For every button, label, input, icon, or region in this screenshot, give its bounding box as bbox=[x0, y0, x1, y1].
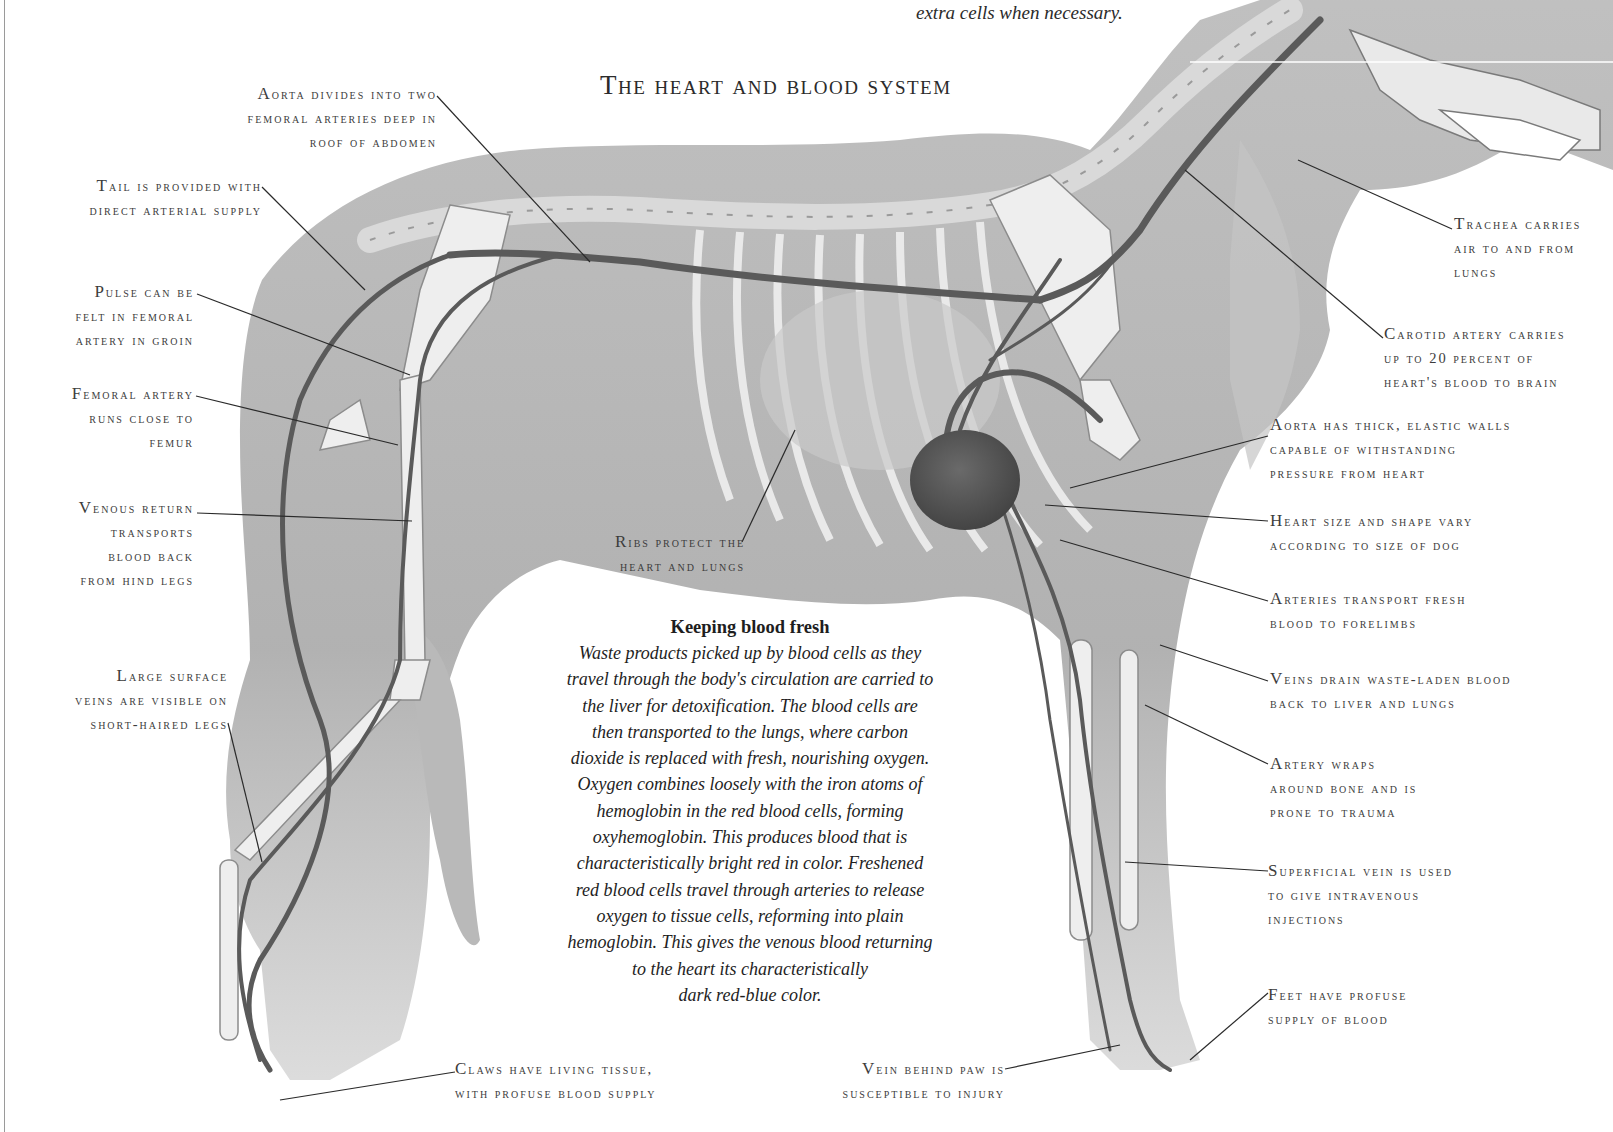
label-line: capable of withstanding bbox=[1270, 437, 1511, 461]
label-line: Trachea carries bbox=[1454, 212, 1581, 236]
keeping-blood-fresh-panel: Keeping blood fresh Waste products picke… bbox=[540, 614, 960, 1008]
label-line: Large surface bbox=[75, 664, 228, 688]
sidebar-line: the liver for detoxification. The blood … bbox=[540, 693, 960, 719]
heart bbox=[910, 430, 1020, 530]
label-line: Feet have profuse bbox=[1268, 983, 1407, 1007]
label-line: around bone and is bbox=[1270, 776, 1417, 800]
label-line: susceptible to injury bbox=[843, 1081, 1005, 1105]
label-vein-paw: Vein behind paw is susceptible to injury bbox=[843, 1057, 1005, 1105]
sidebar-line: travel through the body's circulation ar… bbox=[540, 666, 960, 692]
label-line: blood back bbox=[79, 544, 194, 568]
label-line: Carotid artery carries bbox=[1384, 322, 1565, 346]
label-aorta-walls: Aorta has thick, elastic walls capable o… bbox=[1270, 413, 1511, 485]
label-line: transports bbox=[79, 520, 194, 544]
label-line: Superficial vein is used bbox=[1268, 859, 1453, 883]
label-artery-wraps: Artery wraps around bone and is prone to… bbox=[1270, 752, 1417, 824]
label-feet: Feet have profuse supply of blood bbox=[1268, 983, 1407, 1031]
label-line: veins are visible on bbox=[75, 688, 228, 712]
label-surface-veins: Large surface veins are visible on short… bbox=[75, 664, 228, 736]
label-ribs: Ribs protect the heart and lungs bbox=[615, 530, 745, 578]
label-line: runs close to bbox=[72, 406, 194, 430]
label-line: from hind legs bbox=[79, 568, 194, 592]
label-line: lungs bbox=[1454, 260, 1581, 284]
label-veins-drain: Veins drain waste-laden blood back to li… bbox=[1270, 667, 1512, 715]
label-line: Aorta has thick, elastic walls bbox=[1270, 413, 1511, 437]
label-tail-supply: Tail is provided with direct arterial su… bbox=[90, 174, 262, 222]
label-femoral-artery: Femoral artery runs close to femur bbox=[72, 382, 194, 454]
label-venous-return: Venous return transports blood back from… bbox=[79, 496, 194, 592]
sidebar-line: then transported to the lungs, where car… bbox=[540, 719, 960, 745]
label-line: Artery wraps bbox=[1270, 752, 1417, 776]
label-line: Arteries transport fresh bbox=[1270, 587, 1466, 611]
sidebar-line: hemoglobin. This gives the venous blood … bbox=[540, 929, 960, 955]
sidebar-line: Oxygen combines loosely with the iron at… bbox=[540, 771, 960, 797]
sidebar-heading: Keeping blood fresh bbox=[540, 614, 960, 640]
label-line: according to size of dog bbox=[1270, 533, 1473, 557]
label-line: air to and from bbox=[1454, 236, 1581, 260]
sidebar-line: to the heart its characteristically bbox=[540, 956, 960, 982]
sidebar-line: dark red-blue color. bbox=[540, 982, 960, 1008]
label-line: Vein behind paw is bbox=[843, 1057, 1005, 1081]
sidebar-line: characteristically bright red in color. … bbox=[540, 850, 960, 876]
label-line: heart's blood to brain bbox=[1384, 370, 1565, 394]
label-line: back to liver and lungs bbox=[1270, 691, 1512, 715]
label-line: Heart size and shape vary bbox=[1270, 509, 1473, 533]
label-line: direct arterial supply bbox=[90, 198, 262, 222]
label-line: up to 20 percent of bbox=[1384, 346, 1565, 370]
label-line: felt in femoral bbox=[75, 304, 194, 328]
label-line: blood to forelimbs bbox=[1270, 611, 1466, 635]
label-aorta-divides: Aorta divides into two femoral arteries … bbox=[248, 82, 437, 154]
label-line: femoral arteries deep in bbox=[248, 106, 437, 130]
label-line: heart and lungs bbox=[615, 554, 745, 578]
sidebar-line: oxygen to tissue cells, reforming into p… bbox=[540, 903, 960, 929]
label-line: injections bbox=[1268, 907, 1453, 931]
label-line: Claws have living tissue, bbox=[455, 1057, 657, 1081]
sidebar-line: hemoglobin in the red blood cells, formi… bbox=[540, 798, 960, 824]
label-line: Tail is provided with bbox=[90, 174, 262, 198]
label-claws: Claws have living tissue, with profuse b… bbox=[455, 1057, 657, 1105]
label-forelimb-arteries: Arteries transport fresh blood to foreli… bbox=[1270, 587, 1466, 635]
label-pulse: Pulse can be felt in femoral artery in g… bbox=[75, 280, 194, 352]
label-line: to give intravenous bbox=[1268, 883, 1453, 907]
label-superficial-vein: Superficial vein is used to give intrave… bbox=[1268, 859, 1453, 931]
label-line: Venous return bbox=[79, 496, 194, 520]
label-line: artery in groin bbox=[75, 328, 194, 352]
label-trachea: Trachea carries air to and from lungs bbox=[1454, 212, 1581, 284]
label-line: pressure from heart bbox=[1270, 461, 1511, 485]
label-line: Femoral artery bbox=[72, 382, 194, 406]
sidebar-line: Waste products picked up by blood cells … bbox=[540, 640, 960, 666]
label-heart-size: Heart size and shape vary according to s… bbox=[1270, 509, 1473, 557]
label-line: prone to trauma bbox=[1270, 800, 1417, 824]
label-line: Pulse can be bbox=[75, 280, 194, 304]
label-line: Aorta divides into two bbox=[248, 82, 437, 106]
label-line: femur bbox=[72, 430, 194, 454]
sidebar-line: red blood cells travel through arteries … bbox=[540, 877, 960, 903]
label-line: Ribs protect the bbox=[615, 530, 745, 554]
label-line: roof of abdomen bbox=[248, 130, 437, 154]
sidebar-line: oxyhemoglobin. This produces blood that … bbox=[540, 824, 960, 850]
top-caption: extra cells when necessary. bbox=[916, 2, 1123, 24]
label-line: with profuse blood supply bbox=[455, 1081, 657, 1105]
label-line: Veins drain waste-laden blood bbox=[1270, 667, 1512, 691]
label-carotid: Carotid artery carries up to 20 percent … bbox=[1384, 322, 1565, 394]
label-line: short-haired legs bbox=[75, 712, 228, 736]
sidebar-line: dioxide is replaced with fresh, nourishi… bbox=[540, 745, 960, 771]
page-title: The heart and blood system bbox=[600, 70, 952, 101]
label-line: supply of blood bbox=[1268, 1007, 1407, 1031]
